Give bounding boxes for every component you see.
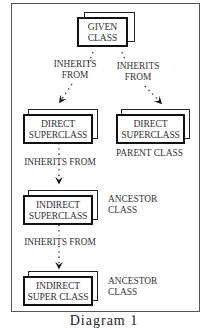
box-indirect-superclass-1: INDIRECT SUPERCLASS [23, 190, 98, 225]
edge-label-line1: INHERITS [48, 59, 102, 70]
box-face: INDIRECT SUPER CLASS [23, 276, 93, 306]
box-direct-superclass-left: DIRECT SUPERCLASS [23, 109, 98, 144]
box-label-line1: GIVEN [88, 21, 117, 32]
edge-label-given-to-direct-left: INHERITS FROM [48, 59, 102, 81]
annotation-ancestor-class-2: ANCESTOR CLASS [108, 276, 157, 298]
annotation-line1: ANCESTOR [108, 194, 157, 205]
box-label-line1: DIRECT [133, 118, 167, 129]
diagram-caption: Diagram 1 [0, 313, 208, 329]
annotation-line1: ANCESTOR [108, 276, 157, 287]
box-label-line2: CLASS [88, 32, 117, 43]
box-direct-superclass-right: DIRECT SUPERCLASS [116, 109, 190, 144]
box-face: INDIRECT SUPERCLASS [23, 195, 93, 225]
box-label-line2: SUPERCLASS [29, 129, 88, 140]
edge-label-indirect-to-indirect: INHERITS FROM [22, 237, 98, 248]
box-indirect-superclass-2: INDIRECT SUPER CLASS [23, 271, 98, 306]
box-label-line1: INDIRECT [36, 199, 80, 210]
box-face: DIRECT SUPERCLASS [116, 114, 185, 144]
box-label-line2: SUPER CLASS [27, 291, 88, 302]
box-face: DIRECT SUPERCLASS [23, 114, 93, 144]
annotation-parent-class: PARENT CLASS [116, 148, 183, 159]
edge-label-line1: INHERITS [111, 61, 165, 72]
box-label-line2: SUPERCLASS [121, 129, 180, 140]
box-label-line2: SUPERCLASS [29, 210, 88, 221]
box-given-class: GIVEN CLASS [77, 12, 135, 48]
box-label-line1: INDIRECT [36, 280, 80, 291]
annotation-ancestor-class-1: ANCESTOR CLASS [108, 194, 157, 216]
edge-label-line2: FROM [48, 70, 102, 81]
box-label-line1: DIRECT [41, 118, 75, 129]
box-face: GIVEN CLASS [77, 17, 128, 47]
annotation-line2: CLASS [108, 287, 157, 298]
edge-label-direct-to-indirect: INHERITS FROM [22, 157, 98, 168]
annotation-line2: CLASS [108, 205, 157, 216]
edge-label-line2: FROM [111, 72, 165, 83]
edge-label-given-to-direct-right: INHERITS FROM [111, 61, 165, 83]
